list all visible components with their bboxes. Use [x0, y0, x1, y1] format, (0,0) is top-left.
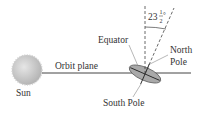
- north-pole-label-line2: Pole: [170, 57, 187, 67]
- sun-label: Sun: [16, 88, 31, 98]
- sun: [12, 55, 42, 85]
- svg-text:°: °: [163, 11, 166, 19]
- equator-label: Equator: [98, 35, 129, 45]
- north-pole-label-line1: North: [170, 45, 192, 55]
- equator-leader: [129, 45, 138, 66]
- tilt-angle-label: 23 1 2 °: [148, 9, 166, 24]
- svg-text:23: 23: [148, 12, 158, 22]
- north-pole-leader: [150, 55, 168, 64]
- earth-orbit-diagram: Sun Orbit plane 23 1 2 ° Equator North P…: [0, 0, 202, 115]
- south-pole-label: South Pole: [103, 98, 144, 108]
- south-pole-leader: [133, 84, 141, 97]
- orbit-plane-label: Orbit plane: [55, 61, 98, 71]
- tilt-angle-arc: [145, 27, 166, 29]
